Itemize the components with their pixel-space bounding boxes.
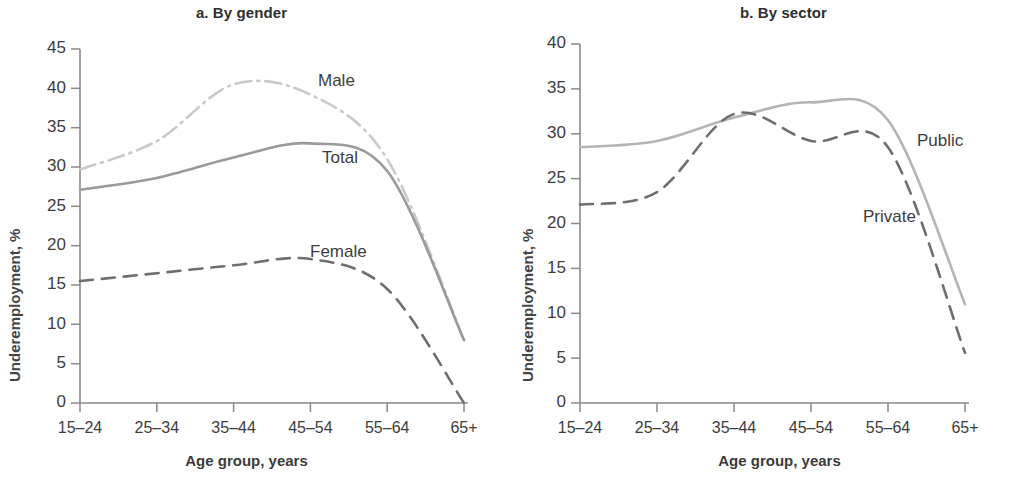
panel-b-xtick-15-24: 15–24 (558, 419, 603, 436)
panel-a-ytick-25: 25 (47, 196, 66, 215)
panel-b-xtick-55-64: 55–64 (866, 419, 911, 436)
panel-a-ytick-30: 30 (47, 156, 66, 175)
panel-a-xtick-45-54: 45–54 (288, 419, 333, 436)
panel-a-xtick-55-64: 55–64 (365, 419, 410, 436)
underemployment-by-age-figure: a. By gender Underemployment, % Age grou… (0, 0, 1026, 479)
series-label-public: Public (917, 131, 964, 150)
panel-a-xtick-15-24: 15–24 (58, 419, 103, 436)
panel-a-xtick-65plus: 65+ (450, 419, 477, 436)
panel-a-series-labels: Male Total Female (310, 71, 367, 261)
panel-a-ytick-20: 20 (47, 235, 66, 254)
panel-b-ytick-40: 40 (547, 33, 566, 52)
series-curve-public (580, 99, 965, 304)
panel-a-xtick-35-44: 35–44 (211, 419, 256, 436)
panel-a-x-tick-labels: 15–24 25–34 35–44 45–54 55–64 65+ (58, 419, 478, 436)
panel-b-xtick-45-54: 45–54 (789, 419, 834, 436)
panel-a-ytick-35: 35 (47, 117, 66, 136)
panel-a-x-ticks (80, 403, 464, 412)
panel-a-xtick-25-34: 25–34 (135, 419, 180, 436)
panel-a-ytick-15: 15 (47, 274, 66, 293)
panel-a-ytick-45: 45 (47, 38, 66, 57)
series-label-private: Private (863, 207, 916, 226)
series-curve-male (80, 81, 464, 340)
panel-a-y-tick-labels: 45 40 35 30 25 20 15 10 5 0 (47, 38, 66, 411)
panel-b-ytick-25: 25 (547, 168, 566, 187)
panel-b-x-ticks (580, 403, 965, 412)
panel-b-plot: 40 35 30 25 20 15 10 5 0 15–24 (513, 0, 1026, 479)
panel-b-xtick-35-44: 35–44 (712, 419, 757, 436)
panel-a-y-ticks (71, 49, 80, 403)
panel-b-ytick-0: 0 (557, 392, 566, 411)
series-curve-private (580, 112, 965, 352)
panel-b-series-labels: Public Private (863, 131, 964, 226)
series-label-total: Total (322, 148, 358, 167)
panel-a-ytick-5: 5 (57, 353, 66, 372)
panel-by-gender: a. By gender Underemployment, % Age grou… (0, 0, 513, 479)
panel-a-series-group (80, 81, 464, 403)
series-curve-female (80, 258, 464, 403)
series-label-male: Male (318, 71, 355, 90)
panel-b-xtick-65plus: 65+ (951, 419, 978, 436)
panel-b-y-ticks (571, 44, 580, 403)
panel-b-ytick-30: 30 (547, 123, 566, 142)
panel-b-y-tick-labels: 40 35 30 25 20 15 10 5 0 (547, 33, 566, 411)
panel-by-sector: b. By sector Underemployment, % Age grou… (513, 0, 1026, 479)
panel-b-ytick-20: 20 (547, 213, 566, 232)
series-curve-total (80, 143, 464, 340)
panel-b-xtick-25-34: 25–34 (635, 419, 680, 436)
panel-b-ytick-15: 15 (547, 258, 566, 277)
panel-a-plot: 45 40 35 30 25 20 15 10 5 0 15 (0, 0, 513, 479)
panel-a-ytick-0: 0 (57, 392, 66, 411)
panel-b-x-tick-labels: 15–24 25–34 35–44 45–54 55–64 65+ (558, 419, 979, 436)
panel-a-ytick-10: 10 (47, 314, 66, 333)
series-label-female: Female (310, 242, 367, 261)
panel-b-ytick-35: 35 (547, 78, 566, 97)
panel-a-ytick-40: 40 (47, 78, 66, 97)
panel-b-ytick-5: 5 (557, 348, 566, 367)
panel-b-ytick-10: 10 (547, 303, 566, 322)
